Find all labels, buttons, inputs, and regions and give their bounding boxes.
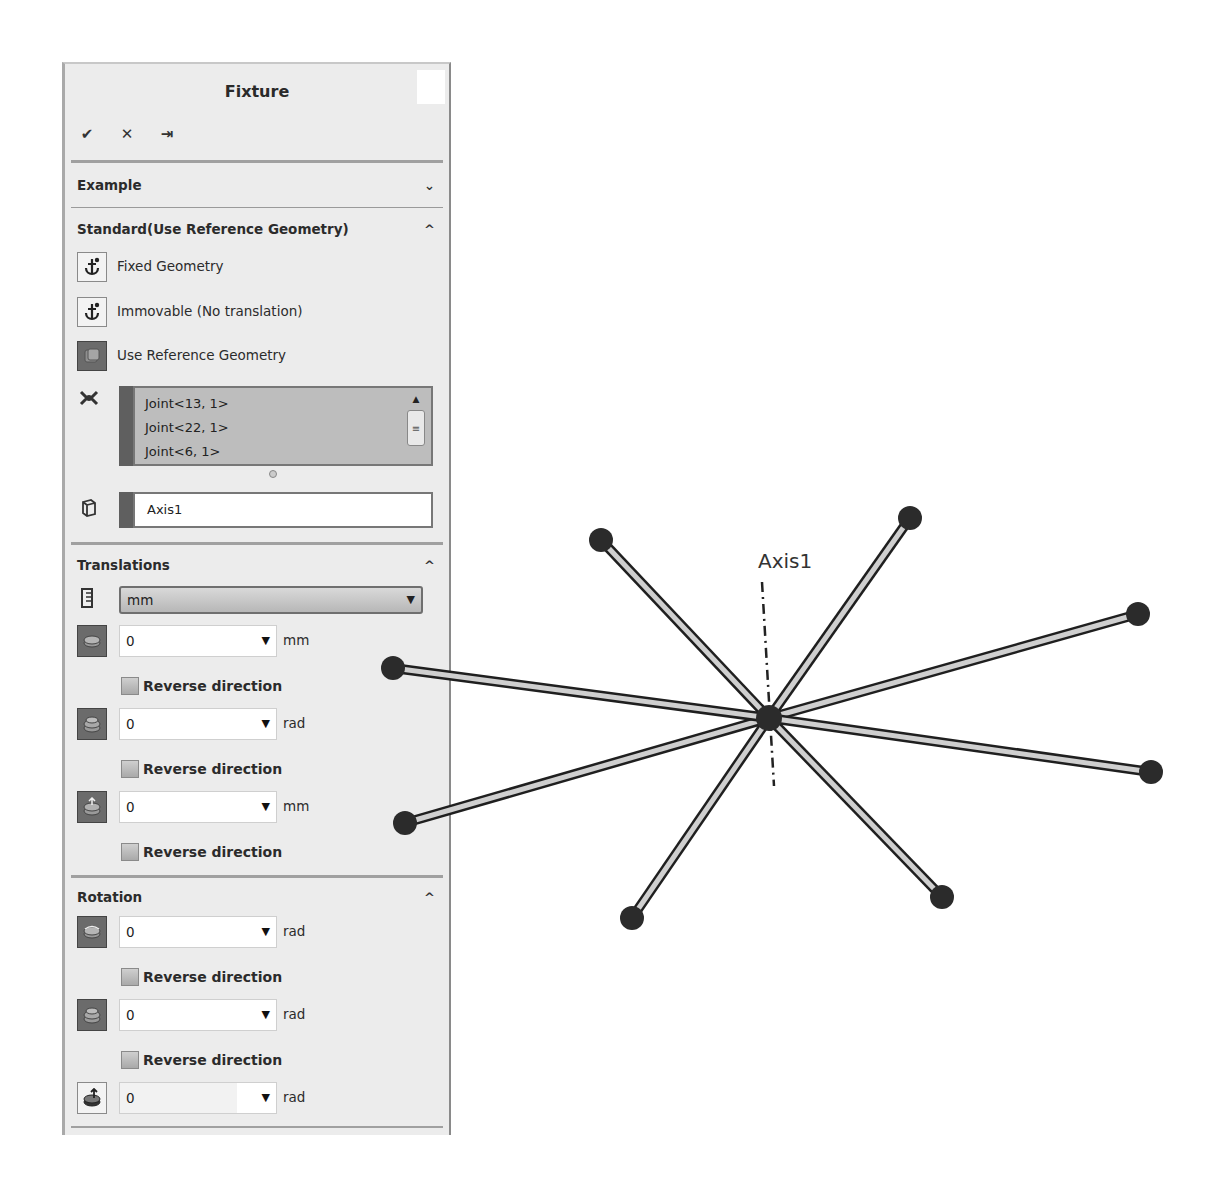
chevron-up-icon: ^ [424, 890, 435, 905]
truss-member [769, 718, 1151, 772]
translation-direction-1-button[interactable] [77, 625, 107, 657]
rotation-1-input[interactable]: 0 ▼ [119, 916, 277, 948]
checkbox-box[interactable] [121, 677, 139, 695]
pin-button[interactable]: ⇥ [159, 125, 175, 143]
joint-node[interactable] [1139, 760, 1163, 784]
dropdown-arrow-icon[interactable]: ▼ [262, 1083, 270, 1113]
translation-icon [82, 797, 102, 817]
selection-color-strip [119, 492, 133, 528]
dropdown-arrow-icon[interactable]: ▼ [262, 1000, 270, 1030]
axis1-line [762, 582, 774, 786]
reverse-direction-5-checkbox[interactable]: Reverse direction [121, 1049, 282, 1071]
reference-geometry-field[interactable]: Axis1 [133, 492, 433, 528]
dropdown-arrow-icon[interactable]: ▼ [262, 792, 270, 822]
checkbox-box[interactable] [121, 843, 139, 861]
joint-node[interactable] [589, 528, 613, 552]
translation-1-value: 0 [126, 633, 135, 649]
rotation-3-button[interactable] [77, 1082, 107, 1114]
joint-node[interactable] [930, 885, 954, 909]
center-joint-node[interactable] [756, 705, 782, 731]
rotation-3-value: 0 [126, 1090, 135, 1106]
scroll-thumb[interactable]: ≡ [407, 410, 425, 446]
joints-selection-list[interactable]: Joint<13, 1> Joint<22, 1> Joint<6, 1> ▲ … [133, 386, 433, 466]
translation-direction-2-button[interactable] [77, 708, 107, 740]
list-item[interactable]: Joint<6, 1> [145, 440, 431, 464]
translation-2-input[interactable]: 0 ▼ [119, 708, 277, 740]
divider [71, 875, 443, 878]
section-standard-label: Standard(Use Reference Geometry) [77, 221, 349, 237]
section-rotation-header[interactable]: Rotation ^ [77, 886, 435, 908]
rotation-2-input[interactable]: 0 ▼ [119, 999, 277, 1031]
section-translations-header[interactable]: Translations ^ [77, 554, 435, 576]
fixed-geometry-button[interactable] [77, 252, 107, 282]
translation-3-unit: mm [283, 798, 309, 814]
translation-1-unit: mm [283, 632, 309, 648]
rotation-2-button[interactable] [77, 999, 107, 1031]
reverse-direction-4-checkbox[interactable]: Reverse direction [121, 966, 282, 988]
checkbox-label: Reverse direction [143, 678, 282, 694]
ok-button[interactable]: ✔ [79, 125, 95, 143]
checkbox-label: Reverse direction [143, 761, 282, 777]
fixed-geometry-label: Fixed Geometry [117, 258, 224, 274]
divider [71, 542, 443, 545]
section-example-label: Example [77, 177, 142, 193]
section-rotation-label: Rotation [77, 889, 142, 905]
cancel-button[interactable]: ✕ [119, 125, 135, 143]
dropdown-arrow-icon: ▼ [407, 588, 415, 612]
joint-node[interactable] [620, 906, 644, 930]
use-reference-geometry-label: Use Reference Geometry [117, 347, 286, 363]
rotation-3-input[interactable]: 0 ▼ [119, 1082, 277, 1114]
truss-member [601, 540, 769, 718]
joint-node[interactable] [898, 506, 922, 530]
translation-1-input[interactable]: 0 ▼ [119, 625, 277, 657]
section-example-header[interactable]: Example ⌄ [77, 174, 435, 196]
rotation-2-unit: rad [283, 1006, 305, 1022]
dropdown-arrow-icon[interactable]: ▼ [262, 626, 270, 656]
rotation-1-button[interactable] [77, 916, 107, 948]
translation-3-input[interactable]: 0 ▼ [119, 791, 277, 823]
panel-actions: ✔ ✕ ⇥ [79, 124, 175, 144]
truss-member [769, 718, 942, 897]
immovable-label: Immovable (No translation) [117, 303, 303, 319]
checkbox-box[interactable] [121, 1051, 139, 1069]
translation-direction-3-button[interactable] [77, 791, 107, 823]
chevron-up-icon: ^ [424, 558, 435, 573]
reverse-direction-3-checkbox[interactable]: Reverse direction [121, 841, 282, 863]
checkbox-label: Reverse direction [143, 844, 282, 860]
dropdown-arrow-icon[interactable]: ▼ [262, 917, 270, 947]
truss-member [405, 718, 769, 823]
truss-member [405, 718, 769, 823]
joint-node[interactable] [1126, 602, 1150, 626]
divider [71, 207, 443, 208]
checkbox-box[interactable] [121, 760, 139, 778]
list-resize-handle[interactable] [269, 470, 277, 478]
list-item[interactable]: Joint<13, 1> [145, 392, 431, 416]
scroll-up-icon[interactable]: ▲ [407, 394, 425, 404]
truss-member [769, 614, 1138, 718]
translation-2-value: 0 [126, 716, 135, 732]
dropdown-arrow-icon[interactable]: ▼ [262, 709, 270, 739]
truss-members [393, 518, 1151, 918]
divider [71, 160, 443, 163]
close-icon: ✕ [121, 125, 134, 143]
rotation-3-unit: rad [283, 1089, 305, 1105]
units-selected-value: mm [127, 592, 153, 608]
chevron-down-icon: ⌄ [424, 178, 435, 193]
checkbox-box[interactable] [121, 968, 139, 986]
immovable-button[interactable] [77, 297, 107, 327]
use-reference-geometry-button[interactable] [77, 341, 107, 371]
units-dropdown[interactable]: mm ▼ [119, 586, 423, 614]
checkbox-label: Reverse direction [143, 1052, 282, 1068]
checkbox-label: Reverse direction [143, 969, 282, 985]
list-scrollbar[interactable]: ▲ ≡ [407, 394, 425, 458]
reverse-direction-2-checkbox[interactable]: Reverse direction [121, 758, 282, 780]
panel-title: Fixture [65, 82, 449, 101]
reference-plane-icon [79, 498, 97, 522]
anchor-icon [81, 256, 103, 278]
reverse-direction-1-checkbox[interactable]: Reverse direction [121, 675, 282, 697]
section-standard-header[interactable]: Standard(Use Reference Geometry) ^ [77, 218, 435, 240]
selection-color-strip [119, 386, 133, 466]
truss-member [769, 718, 1151, 772]
rotation-icon [82, 923, 102, 941]
list-item[interactable]: Joint<22, 1> [145, 416, 431, 440]
